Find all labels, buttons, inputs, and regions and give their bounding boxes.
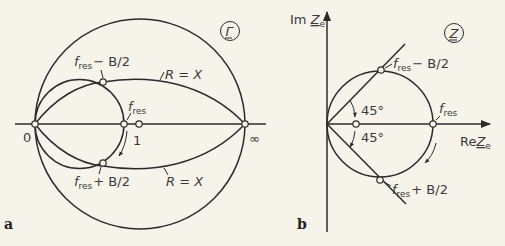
diagram-canvas: 0 ∞ 1 fres− B/2 fres fres+ B/2 R = X R =… [0, 0, 505, 246]
lower-band-point [100, 160, 106, 166]
r-equals-x-upper-curve [35, 79, 245, 124]
origin-point [32, 121, 38, 127]
upper-band-label: fres− B/2 [74, 54, 130, 71]
origin-label: 0 [23, 130, 31, 145]
f-res-point [121, 121, 127, 127]
lower-band-leader [99, 167, 101, 174]
r-equals-x-upper-label: R = X [165, 67, 203, 82]
f-res-leader-b [436, 116, 440, 120]
upper-band-leader-b [385, 64, 392, 68]
r-equals-x-lower-label: R = X [166, 174, 204, 189]
f-res-label: fres [128, 99, 147, 116]
z-plane-symbol: Z [449, 26, 460, 41]
f-res-leader [127, 113, 131, 120]
unit-label: 1 [133, 133, 141, 148]
panel-b-label: b [297, 216, 307, 232]
lower-band-label: fres+ B/2 [74, 174, 130, 191]
infinity-label: ∞ [249, 131, 260, 146]
upper-band-point-b [378, 67, 384, 73]
lower-band-point-b [377, 177, 383, 183]
unit-point [136, 121, 142, 127]
circle-center-point [353, 121, 359, 127]
lower-angle-label: 45° [361, 130, 384, 145]
frequency-direction-arrow-b [425, 143, 436, 163]
f-res-point-b [430, 121, 436, 127]
imaginary-axis-label: Im Ze [290, 12, 326, 29]
panel-a-reflection-plane: 0 ∞ 1 fres− B/2 fres fres+ B/2 R = X R =… [4, 19, 266, 232]
panel-a-label: a [4, 216, 13, 232]
real-axis-label: ReZe [460, 134, 491, 151]
upper-angle-label: 45° [361, 103, 384, 118]
upper-band-label-b: fres− B/2 [393, 56, 449, 73]
infinity-point [242, 121, 248, 127]
upper-angle-arc [350, 100, 355, 117]
gamma-plane-symbol: Γ [226, 24, 235, 39]
upper-band-point [100, 79, 106, 85]
upper-band-leader [101, 70, 103, 78]
panel-b-impedance-plane: Im Ze ReZe 45° 45° fres− B/2 fres fres+ … [290, 12, 491, 232]
r-x-upper-leader [160, 72, 164, 80]
lower-band-label-b: fres+ B/2 [392, 182, 448, 199]
f-res-label-b: fres [439, 101, 458, 118]
lower-angle-arc [350, 131, 355, 147]
